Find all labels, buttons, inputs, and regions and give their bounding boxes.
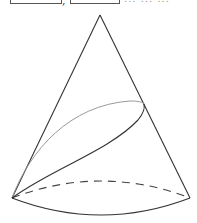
section-back-curve — [12, 101, 144, 198]
section-front-curve — [12, 104, 144, 198]
cone-figure — [0, 0, 197, 223]
base-front-arc — [12, 198, 190, 215]
base-back-arc-dashed — [12, 181, 190, 198]
cone-right-edge — [100, 15, 190, 198]
